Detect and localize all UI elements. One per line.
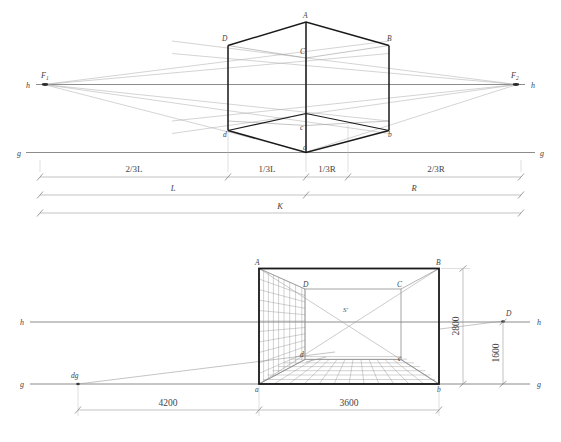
lower-room-vertex-labels: A B a b D C d c: [254, 258, 441, 394]
label-c-lower: c: [300, 123, 304, 132]
height-dimension-2800: 2800: [441, 266, 470, 388]
upper-ground-label-right: g: [540, 149, 544, 158]
floor-grid: [259, 357, 439, 384]
dim-1600: 1600: [491, 343, 501, 362]
dim-1-3-L: 1/3L: [259, 164, 276, 174]
label-A: A: [302, 11, 308, 20]
dim-1-3-R: 1/3R: [318, 164, 336, 174]
distance-point-ground-dot: [76, 383, 80, 385]
lower-label-D: D: [302, 280, 309, 289]
dim-3600: 3600: [340, 398, 359, 408]
dim-2-3-L: 2/3L: [126, 164, 143, 174]
station-point-label: S': [343, 306, 349, 314]
label-D: D: [221, 34, 228, 43]
distance-point-right-label: D: [505, 309, 512, 318]
upper-ground-label-left: g: [17, 149, 21, 158]
lower-label-B: B: [436, 258, 441, 267]
back-wall-rect: [305, 289, 401, 360]
lower-ground-label-left: g: [20, 380, 24, 389]
right-vanishing-point-label: F2: [510, 71, 519, 81]
right-vanishing-point: [513, 83, 519, 86]
dim-2800: 2800: [451, 316, 461, 335]
upper-horizon-label-left: h: [26, 81, 30, 90]
upper-horizon-label-right: h: [531, 81, 535, 90]
lower-label-A: A: [254, 258, 260, 267]
dim-R: R: [410, 183, 417, 193]
dimension-row-LR: L R: [37, 183, 524, 199]
lower-label-C: C: [397, 280, 403, 289]
dim-4200: 4200: [159, 398, 178, 408]
lower-label-a: a: [255, 385, 259, 394]
dimension-row-thirds: 2/3L 1/3L 1/3R 2/3R: [37, 164, 524, 181]
label-B: B: [387, 34, 392, 43]
left-vanishing-point-label: F1: [40, 71, 49, 81]
upper-diagram: h h g g F1 F2: [17, 11, 544, 217]
label-a-lower: a: [303, 143, 307, 152]
dim-L: L: [170, 183, 176, 193]
label-d-lower: d: [223, 130, 227, 139]
upper-projection-verticals: [40, 22, 521, 172]
left-vanishing-point: [42, 83, 48, 86]
lower-label-d: d: [300, 350, 304, 359]
lower-horizon-label-right: h: [537, 318, 541, 327]
drawing-canvas: h h g g F1 F2: [0, 0, 561, 442]
lower-horizon-label-left: h: [20, 318, 24, 327]
dim-K: K: [276, 201, 284, 211]
dim-2-3-R: 2/3R: [427, 164, 445, 174]
label-b-lower: b: [388, 130, 392, 139]
dimension-row-K: K: [37, 201, 524, 217]
lower-diagram: h h g g dg D: [20, 258, 541, 416]
height-dimension-1600: 1600: [491, 319, 507, 387]
lower-ground-label-right: g: [537, 380, 541, 389]
perspective-drawing-svg: h h g g F1 F2: [0, 0, 561, 442]
distance-point-ground-label: dg: [71, 371, 79, 380]
